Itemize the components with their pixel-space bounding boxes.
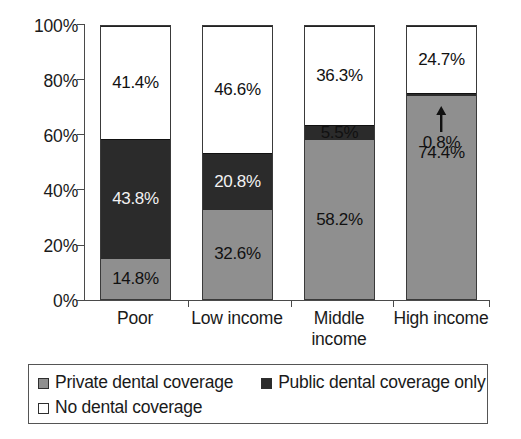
segment-label: 24.7%: [418, 50, 465, 70]
segment-private-low-income[interactable]: 32.6%: [203, 210, 272, 299]
segment-none-high-income[interactable]: 24.7%: [407, 26, 476, 93]
legend-swatch-public-icon: [261, 378, 272, 389]
legend-row-1: Private dental coverage Public dental co…: [38, 372, 487, 397]
arrow-up-icon: [436, 106, 448, 132]
y-axis-label-0: 0%: [0, 291, 78, 312]
legend-item-public[interactable]: Public dental coverage only: [261, 372, 485, 393]
y-axis-line: [84, 24, 85, 301]
segment-label: 46.6%: [214, 80, 261, 100]
segment-label: 32.6%: [214, 244, 261, 264]
segment-public-middle-income[interactable]: 5.5%: [305, 125, 374, 140]
segment-label: 58.2%: [316, 210, 363, 230]
y-tick-60: [77, 134, 85, 135]
plot-area: 14.8% 43.8% 41.4% 32.6% 20.8% 46.6%: [92, 25, 490, 300]
segment-none-poor[interactable]: 41.4%: [101, 26, 170, 139]
legend: Private dental coverage Public dental co…: [28, 364, 488, 424]
legend-label-private: Private dental coverage: [55, 372, 233, 393]
segment-none-low-income[interactable]: 46.6%: [203, 26, 272, 153]
category-label-line1: High income: [381, 308, 501, 329]
cropped-caption-text: [0, 430, 521, 439]
bar-high-income[interactable]: 74.4% 0.8% 24.7%: [406, 25, 477, 300]
segment-public-low-income[interactable]: 20.8%: [203, 153, 272, 210]
y-tick-0: [77, 300, 85, 301]
x-tick-2: [291, 300, 292, 307]
x-tick-1: [188, 300, 189, 307]
category-label-line2: income: [279, 329, 399, 350]
y-axis-label-80: 80%: [0, 71, 78, 92]
legend-item-private[interactable]: Private dental coverage: [38, 372, 233, 393]
segment-private-middle-income[interactable]: 58.2%: [305, 140, 374, 299]
legend-item-none[interactable]: No dental coverage: [38, 397, 202, 418]
segment-label: 43.8%: [112, 189, 159, 209]
y-axis-label-60: 60%: [0, 126, 78, 147]
x-axis-line: [84, 300, 490, 301]
y-axis-label-20: 20%: [0, 236, 78, 257]
legend-label-public: Public dental coverage only: [278, 372, 485, 393]
y-tick-40: [77, 189, 85, 190]
x-tick-3: [393, 300, 394, 307]
segment-private-poor[interactable]: 14.8%: [101, 259, 170, 299]
y-tick-20: [77, 245, 85, 246]
y-axis-label-40: 40%: [0, 181, 78, 202]
segment-label: 14.8%: [112, 269, 159, 289]
bar-low-income[interactable]: 32.6% 20.8% 46.6%: [202, 25, 273, 300]
segment-label: 20.8%: [214, 172, 261, 192]
segment-label: 41.4%: [112, 73, 159, 93]
legend-swatch-private-icon: [38, 378, 49, 389]
y-axis-label-100: 100%: [0, 16, 78, 37]
bar-poor[interactable]: 14.8% 43.8% 41.4%: [100, 25, 171, 300]
segment-public-poor[interactable]: 43.8%: [101, 139, 170, 259]
segment-none-middle-income[interactable]: 36.3%: [305, 26, 374, 125]
stacked-bar-chart: 100% 80% 60% 40% 20% 0% 14.8% 43.8% 41.4…: [0, 0, 521, 439]
bar-middle-income[interactable]: 58.2% 5.5% 36.3%: [304, 25, 375, 300]
x-tick-4: [489, 300, 490, 307]
segment-private-high-income[interactable]: 74.4% 0.8%: [407, 96, 476, 299]
y-tick-80: [77, 79, 85, 80]
y-tick-100: [77, 24, 85, 25]
segment-label: 5.5%: [321, 123, 359, 143]
legend-label-none: No dental coverage: [55, 397, 202, 418]
segment-label: 74.4%: [418, 143, 465, 163]
segment-label: 36.3%: [316, 66, 363, 86]
category-label-high-income: High income: [381, 308, 501, 329]
legend-swatch-none-icon: [38, 403, 49, 414]
legend-row-2: No dental coverage: [38, 397, 487, 422]
segment-public-high-income[interactable]: [407, 93, 476, 95]
